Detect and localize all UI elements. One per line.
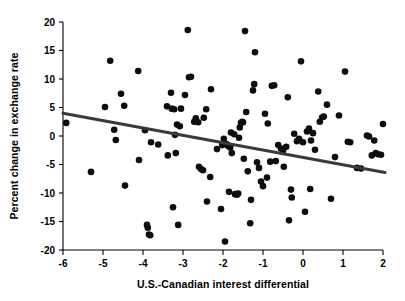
data-point	[195, 119, 202, 126]
data-point	[148, 139, 155, 146]
data-point	[214, 146, 221, 153]
data-point	[308, 137, 315, 144]
data-point	[366, 133, 373, 140]
data-point	[135, 68, 142, 75]
data-point	[302, 209, 309, 216]
data-point	[250, 87, 257, 94]
data-point	[275, 142, 282, 149]
data-point	[88, 169, 95, 176]
data-point	[254, 159, 261, 166]
data-point	[218, 206, 225, 213]
data-point	[102, 104, 109, 111]
x-tick-label: 1	[340, 258, 346, 269]
data-point	[267, 158, 274, 165]
data-point	[285, 94, 292, 101]
data-point	[281, 163, 288, 170]
data-point	[145, 224, 152, 231]
plot-area: -20-15-10-505101520 -6-5-4-3-2-1012 U.S.…	[0, 0, 405, 301]
x-tick-label: -1	[259, 258, 268, 269]
data-point	[262, 110, 269, 117]
data-point	[247, 220, 254, 227]
data-point	[185, 27, 192, 34]
x-axis: -6-5-4-3-2-1012	[59, 250, 387, 269]
data-point	[235, 190, 242, 197]
data-point	[265, 120, 272, 127]
data-point	[236, 134, 243, 141]
data-point	[111, 126, 118, 133]
data-point	[342, 68, 349, 75]
data-point	[273, 158, 280, 165]
y-tick-label: -15	[41, 216, 56, 227]
data-point	[321, 113, 328, 120]
data-point	[113, 137, 120, 144]
y-axis-title: Percent change in exchange rate	[8, 52, 20, 219]
data-point	[241, 156, 248, 163]
data-point	[165, 152, 172, 159]
data-point	[121, 102, 128, 109]
data-point	[324, 101, 331, 108]
data-point	[207, 174, 214, 181]
data-point	[226, 189, 233, 196]
data-point	[63, 120, 70, 127]
data-point	[291, 130, 298, 137]
y-tick-label: 20	[44, 17, 56, 28]
data-point	[201, 114, 208, 121]
data-point	[289, 194, 296, 201]
y-axis: -20-15-10-505101520	[41, 17, 63, 256]
y-tick-label: 10	[44, 74, 56, 85]
data-point	[245, 168, 252, 175]
data-point	[371, 137, 378, 144]
data-point	[107, 57, 114, 64]
data-point	[336, 112, 343, 119]
x-tick-label: -5	[99, 258, 108, 269]
data-point	[222, 238, 229, 245]
data-point	[136, 157, 143, 164]
data-point	[177, 123, 184, 130]
data-point	[332, 154, 339, 161]
data-point	[283, 144, 290, 151]
data-point	[122, 182, 129, 189]
data-point	[203, 106, 210, 113]
data-point	[307, 186, 314, 193]
data-point	[310, 130, 317, 137]
x-tick-label: -3	[179, 258, 188, 269]
trendline-segment	[63, 113, 385, 172]
data-point	[243, 109, 250, 116]
data-point	[171, 106, 178, 113]
y-tick-label: -20	[41, 245, 56, 256]
data-point	[188, 73, 195, 80]
data-point	[240, 119, 247, 126]
data-point	[170, 204, 177, 211]
data-point	[208, 86, 215, 93]
data-point	[312, 146, 319, 153]
y-tick-label: -10	[41, 188, 56, 199]
data-point	[118, 91, 125, 98]
data-point	[173, 150, 180, 157]
x-axis-title: U.S.-Canadian interest differential	[137, 278, 309, 290]
data-point	[264, 174, 271, 181]
data-point	[252, 49, 259, 56]
data-point	[315, 88, 322, 95]
data-point	[251, 81, 258, 88]
data-point	[286, 217, 293, 224]
x-tick-label: -6	[59, 258, 68, 269]
data-point	[204, 198, 211, 205]
y-tick-label: 5	[49, 102, 55, 113]
data-point	[168, 89, 175, 96]
data-point	[288, 186, 295, 193]
data-point	[182, 92, 189, 99]
data-point	[175, 222, 182, 229]
data-point	[298, 58, 305, 65]
data-point	[147, 232, 154, 239]
x-tick-label: 2	[380, 258, 386, 269]
data-point	[260, 183, 267, 190]
data-point	[229, 150, 236, 157]
data-point	[178, 105, 185, 112]
data-point	[347, 139, 354, 146]
y-tick-label: 0	[49, 131, 55, 142]
data-point	[256, 165, 263, 172]
scatter-chart: -20-15-10-505101520 -6-5-4-3-2-1012 U.S.…	[0, 0, 405, 301]
x-tick-label: -2	[219, 258, 228, 269]
x-tick-label: 0	[300, 258, 306, 269]
trendline	[63, 113, 385, 172]
